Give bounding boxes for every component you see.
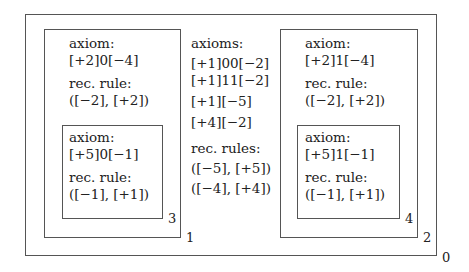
box-1-rule: ([−2], [+2]) [69,92,149,109]
center-rule-1: ([−5], [+5]) [191,160,271,177]
center-axiom-3: [+1][−5] [191,93,271,110]
center-axiom-2: [+1]11[−2] [191,72,271,89]
box-2-content: axiom: [+2]1[−4] rec. rule: ([−2], [+2]) [305,35,385,109]
box-4-label: 4 [405,212,413,225]
box-1-axiom: [+2]0[−4] [69,52,149,69]
center-axioms-heading: axioms: [191,35,271,52]
box-2-label: 2 [423,231,431,244]
box-4-rule-heading: rec. rule: [305,169,385,186]
box-4-rule: ([−1], [+1]) [305,186,385,203]
box-4-content: axiom: [+5]1[−1] rec. rule: ([−1], [+1]) [305,129,385,203]
box-3-axiom: [+5]0[−1] [69,146,149,163]
outer-box-label: 0 [442,251,450,264]
box-3-rule-heading: rec. rule: [69,169,149,186]
box-2-rule: ([−2], [+2]) [305,92,385,109]
box-1-label: 1 [186,231,194,244]
box-2-axiom: [+2]1[−4] [305,52,385,69]
box-4-axiom-heading: axiom: [305,129,385,146]
box-2-rule-heading: rec. rule: [305,75,385,92]
box-1-axiom-heading: axiom: [69,35,149,52]
center-rule-2: ([−4], [+4]) [191,180,271,197]
box-3-content: axiom: [+5]0[−1] rec. rule: ([−1], [+1]) [69,129,149,203]
box-2-axiom-heading: axiom: [305,35,385,52]
box-1-content: axiom: [+2]0[−4] rec. rule: ([−2], [+2]) [69,35,149,109]
box-1-rule-heading: rec. rule: [69,75,149,92]
box-3-rule: ([−1], [+1]) [69,186,149,203]
box-3-axiom-heading: axiom: [69,129,149,146]
center-axiom-4: [+4][−2] [191,114,271,131]
center-content: axioms: [+1]00[−2] [+1]11[−2] [+1][−5] [… [191,35,271,197]
center-rules-heading: rec. rules: [191,140,271,157]
box-4-axiom: [+5]1[−1] [305,146,385,163]
box-3-label: 3 [168,212,176,225]
center-axiom-1: [+1]00[−2] [191,55,271,72]
